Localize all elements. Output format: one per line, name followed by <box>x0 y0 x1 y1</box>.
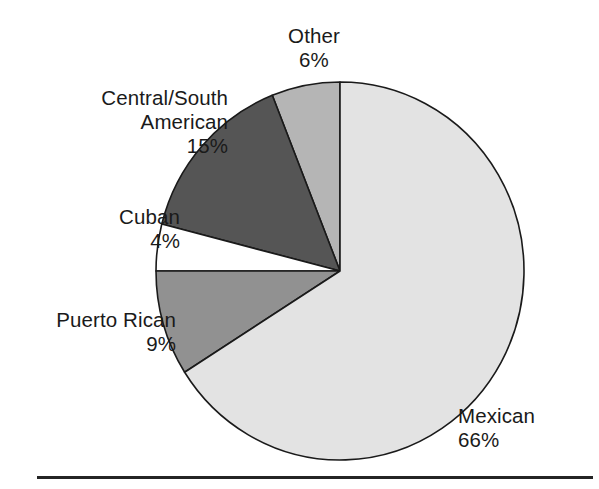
pie-chart-figure: Other 6% Central/South American 15% Cuba… <box>0 0 599 489</box>
slice-label-csa-percent: 15% <box>48 134 228 158</box>
slice-label-mexican: Mexican 66% <box>458 404 588 452</box>
slice-label-cuban: Cuban 4% <box>40 205 180 253</box>
slice-label-puerto-rican: Puerto Rican 9% <box>8 308 176 356</box>
slice-label-pr-name: Puerto Rican <box>56 308 176 331</box>
slice-label-pr-percent: 9% <box>8 332 176 356</box>
slice-label-cuban-percent: 4% <box>40 229 180 253</box>
slice-label-other-name: Other <box>288 24 340 47</box>
slice-label-csa-line1: Central/South <box>101 86 228 109</box>
slice-label-cuban-name: Cuban <box>119 205 180 228</box>
slice-label-csa-line2: American <box>48 110 228 134</box>
slice-label-mexican-percent: 66% <box>458 428 588 452</box>
slice-label-other: Other 6% <box>254 24 374 72</box>
bottom-rule-divider <box>37 476 593 479</box>
slice-label-other-percent: 6% <box>254 48 374 72</box>
slice-label-mexican-name: Mexican <box>458 404 535 427</box>
slice-label-central-south-american: Central/South American 15% <box>48 86 228 158</box>
